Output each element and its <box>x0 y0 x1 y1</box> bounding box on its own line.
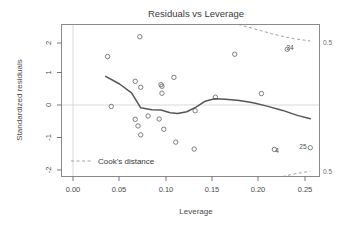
x-tick-label: 0.15 <box>205 185 220 194</box>
data-point <box>139 85 143 89</box>
data-point <box>308 146 312 150</box>
point-id-labels-group: 24425 <box>275 44 307 153</box>
cooks-contour-label-top: 0.5 <box>323 39 332 46</box>
x-axis-ticks <box>73 177 305 182</box>
point-id-label: 25 <box>299 143 307 150</box>
data-point <box>174 140 178 144</box>
data-point <box>139 133 143 137</box>
data-point <box>157 117 161 121</box>
plot-frame <box>62 25 320 177</box>
y-tick-label: 2 <box>44 41 53 45</box>
cooks-contour-label-bottom: 0.5 <box>323 168 332 175</box>
data-point <box>133 79 137 83</box>
y-tick-label: 1 <box>44 70 53 74</box>
data-point <box>133 117 137 121</box>
x-tick-label: 0.00 <box>66 185 81 194</box>
legend-label-cooks-distance: Cook's distance <box>98 157 155 166</box>
x-tick-labels: 0.00 0.05 0.10 0.15 0.20 0.25 <box>66 185 313 194</box>
data-point <box>146 114 150 118</box>
x-tick-label: 0.05 <box>112 185 127 194</box>
y-tick-label: 0 <box>44 103 53 107</box>
reference-lines <box>62 25 319 176</box>
point-id-label: 24 <box>286 44 294 51</box>
data-point <box>105 54 109 58</box>
data-point <box>160 91 164 95</box>
data-point <box>192 147 196 151</box>
data-point <box>172 75 176 79</box>
data-points-group <box>105 35 312 152</box>
y-axis-label: Standardized residuals <box>15 59 24 140</box>
x-tick-label: 0.10 <box>159 185 174 194</box>
x-axis-label: Leverage <box>179 207 213 216</box>
data-point <box>136 124 140 128</box>
x-tick-label: 0.25 <box>298 185 313 194</box>
legend: Cook's distance <box>71 157 155 166</box>
plot-canvas: 0.00 0.05 0.10 0.15 0.20 0.25 2 1 0 -1 -… <box>0 0 361 228</box>
y-tick-labels: 2 1 0 -1 -2 <box>44 41 53 173</box>
y-tick-label: -1 <box>44 134 53 141</box>
y-axis-ticks <box>57 43 62 170</box>
residuals-vs-leverage-plot: 0.00 0.05 0.10 0.15 0.20 0.25 2 1 0 -1 -… <box>0 0 361 228</box>
chart-title: Residuals vs Leverage <box>148 8 244 19</box>
data-point <box>259 91 263 95</box>
cooks-contour-lower <box>283 171 311 176</box>
data-point <box>193 109 197 113</box>
x-tick-label: 0.20 <box>251 185 266 194</box>
y-tick-label: -2 <box>44 167 53 174</box>
cooks-contour-upper <box>238 25 310 42</box>
data-point <box>138 35 142 39</box>
data-point <box>162 127 166 131</box>
data-point <box>233 52 237 56</box>
point-id-label: 4 <box>275 147 279 154</box>
